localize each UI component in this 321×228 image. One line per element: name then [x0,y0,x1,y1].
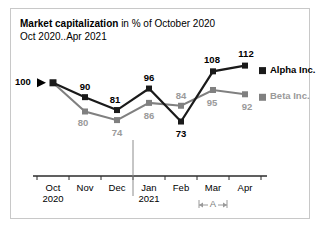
data-point-beta-Apr[interactable] [242,91,248,97]
data-point-beta-Dec[interactable] [114,117,120,123]
data-label-alpha-Nov: 90 [80,82,91,92]
data-point-beta-Feb[interactable] [178,103,184,109]
data-point-alpha-Apr[interactable] [242,63,248,69]
data-label-beta-Jan: 86 [144,111,155,121]
legend-item-beta: Beta Inc. [270,91,310,101]
data-point-alpha-Nov[interactable] [82,94,88,100]
data-label-alpha-Dec: 81 [110,95,121,105]
data-point-alpha-Dec[interactable] [114,107,120,113]
chart-card: Market capitalization in % of October 20… [10,8,310,219]
x-axis-month-Nov: Nov [77,182,94,193]
x-axis-month-Mar: Mar [205,182,221,193]
x-axis-label-Oct: Oct2020 [37,182,69,204]
legend-swatch-beta [259,94,266,101]
annotation-arrow-right-icon [223,202,227,207]
data-label-beta-Apr: 92 [242,102,253,112]
x-axis-month-Oct: Oct [46,182,61,193]
baseline-value-label: 100 [15,77,31,87]
data-label-alpha-Feb: 73 [176,129,187,139]
data-point-beta-Mar[interactable] [210,87,216,93]
legend-swatch-alpha [259,67,266,74]
annotation-arrow-left-icon [199,202,203,207]
data-label-beta-Dec: 74 [112,128,123,138]
data-label-alpha-Mar: 108 [204,55,220,65]
data-point-alpha-Oct[interactable] [50,79,57,86]
legend-item-alpha: Alpha Inc. [270,65,315,75]
x-axis-year-2020: 2020 [37,193,69,204]
data-label-beta-Nov: 80 [78,118,89,128]
data-label-alpha-Jan: 96 [144,73,155,83]
annotation-label-a: A [210,199,216,209]
data-point-beta-Nov[interactable] [82,108,88,114]
x-axis-label-Apr: Apr [229,182,261,193]
legend-marker-layer [259,67,266,101]
data-point-alpha-Mar[interactable] [210,68,216,74]
data-point-beta-Jan[interactable] [146,100,152,106]
data-label-beta-Mar: 95 [207,98,218,108]
x-axis-year-2021: 2021 [133,193,165,204]
x-axis-label-Mar: Mar [197,182,229,193]
baseline-arrow-icon [37,78,46,87]
data-label-alpha-Apr: 112 [238,49,253,59]
x-axis-month-Jan: Jan [141,182,156,193]
x-axis-label-Dec: Dec [101,182,133,193]
data-point-alpha-Jan[interactable] [146,86,152,92]
x-axis-label-Feb: Feb [165,182,197,193]
data-label-beta-Feb: 84 [176,91,187,101]
x-axis-month-Apr: Apr [238,182,253,193]
x-axis-month-Feb: Feb [173,182,189,193]
x-axis-label-Nov: Nov [69,182,101,193]
x-axis-label-Jan: Jan2021 [133,182,165,204]
x-axis-month-Dec: Dec [109,182,126,193]
data-point-alpha-Feb[interactable] [178,119,184,125]
